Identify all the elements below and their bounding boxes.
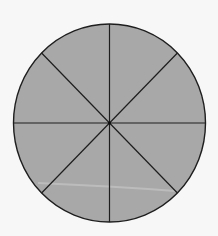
diagram-canvas: 8 — [0, 0, 218, 236]
divided-circle-diagram — [0, 0, 218, 236]
center-point — [108, 121, 111, 124]
